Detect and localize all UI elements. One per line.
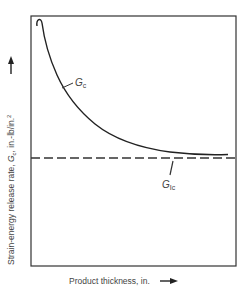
chart-canvas: Gc GIc Product thickness, in. Strain-ene… — [0, 0, 247, 291]
gic-leader-line — [170, 161, 173, 175]
y-axis-label-group: Strain-energy release rate, Gc, in.-lb/i… — [6, 114, 17, 265]
gc-leader-line — [62, 83, 73, 88]
y-axis-label: Strain-energy release rate, Gc, in.-lb/i… — [6, 114, 17, 265]
x-axis-label: Product thickness, in. — [69, 276, 150, 286]
gic-label: GIc — [162, 179, 176, 191]
x-axis-arrow-icon — [160, 278, 178, 284]
plot-frame — [31, 16, 236, 266]
y-axis-arrow-icon — [8, 56, 14, 74]
gc-curve — [37, 19, 228, 154]
gc-label: Gc — [75, 77, 87, 89]
